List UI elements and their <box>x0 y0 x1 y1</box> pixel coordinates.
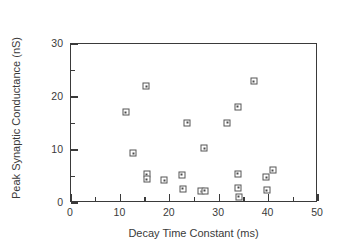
x-tick-minor <box>95 197 96 201</box>
data-point <box>130 150 137 157</box>
data-point <box>224 119 231 126</box>
y-tick-major <box>71 43 78 44</box>
x-tick-minor <box>243 197 244 201</box>
x-tick-major <box>120 194 121 201</box>
y-tick-minor <box>71 70 75 71</box>
data-point <box>143 83 150 90</box>
x-tick-label: 20 <box>163 206 175 218</box>
x-tick-label: 0 <box>67 206 73 218</box>
y-tick-minor <box>71 176 75 177</box>
y-tick-label: 20 <box>51 90 63 102</box>
y-tick-major <box>71 96 78 97</box>
data-point <box>234 170 241 177</box>
y-tick-label: 30 <box>51 37 63 49</box>
x-tick-label: 40 <box>262 206 274 218</box>
y-tick-minor <box>71 123 75 124</box>
y-tick-major <box>71 202 78 203</box>
data-point <box>178 171 185 178</box>
data-point <box>184 119 191 126</box>
x-tick-major <box>219 194 220 201</box>
data-point <box>250 78 257 85</box>
data-point <box>235 193 242 200</box>
x-tick-major <box>317 194 318 201</box>
scatter-plot-figure: Peak Synaptic Conductance (nS) 010203040… <box>0 0 337 250</box>
data-point <box>263 174 270 181</box>
x-tick-label: 30 <box>212 206 224 218</box>
data-point <box>143 176 150 183</box>
y-tick-label: 0 <box>57 196 63 208</box>
plot-area <box>70 43 317 202</box>
data-point <box>235 184 242 191</box>
data-point <box>161 177 168 184</box>
data-point <box>179 185 186 192</box>
data-point <box>122 109 129 116</box>
x-tick-major <box>70 194 71 201</box>
x-tick-label: 50 <box>311 206 323 218</box>
data-point <box>269 167 276 174</box>
y-axis-label: Peak Synaptic Conductance (nS) <box>10 39 22 199</box>
x-tick-major <box>169 194 170 201</box>
x-axis-label: Decay Time Constant (ms) <box>70 227 317 239</box>
x-tick-minor <box>144 197 145 201</box>
y-tick-label: 10 <box>51 143 63 155</box>
data-point <box>201 145 208 152</box>
x-tick-label: 10 <box>114 206 126 218</box>
data-point <box>263 187 270 194</box>
x-tick-major <box>268 194 269 201</box>
x-tick-minor <box>293 197 294 201</box>
data-point <box>234 103 241 110</box>
x-tick-minor <box>194 197 195 201</box>
data-point <box>201 187 208 194</box>
y-tick-major <box>71 149 78 150</box>
